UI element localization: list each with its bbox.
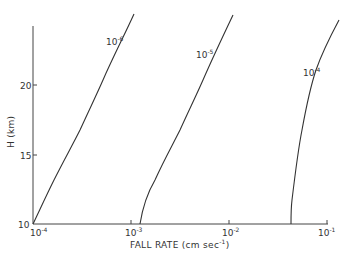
curve-label-1e-4: 10-4: [303, 66, 321, 78]
curve-label-1e-6: 10-6: [106, 35, 124, 47]
x-tick-label-1e-4: 10-4: [30, 226, 48, 238]
y-axis-title: H (km): [6, 116, 16, 148]
x-axis-title: FALL RATE (cm sec-1): [130, 238, 230, 250]
x-tick-label-1e-3: 10-3: [125, 226, 143, 238]
fall-rate-chart: 10 15 20 10-4 10-3 10-2 10-1 H (km) FALL…: [0, 0, 345, 258]
y-tick-label-10: 10: [18, 220, 30, 230]
curve-1e-5: [140, 15, 233, 224]
x-tick-label-1e-1: 10-1: [318, 226, 336, 238]
y-ticks: 10 15 20: [18, 81, 37, 230]
y-tick-label-15: 15: [20, 151, 31, 161]
curve-label-1e-5: 10-5: [196, 48, 214, 60]
curve-1e-6: [33, 14, 134, 224]
y-tick-label-20: 20: [20, 81, 32, 91]
x-tick-label-1e-2: 10-2: [222, 226, 240, 238]
curve-1e-4: [291, 20, 339, 224]
x-ticks: 10-4 10-3 10-2 10-1: [30, 220, 336, 238]
